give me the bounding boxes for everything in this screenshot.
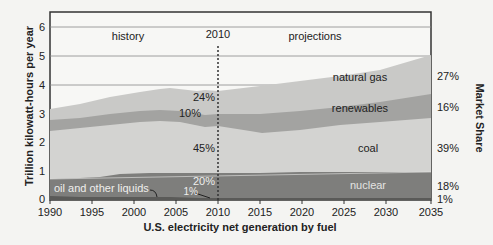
label-nuclear: nuclear [350, 179, 386, 191]
svg-text:2030: 2030 [374, 206, 398, 218]
svg-text:2035: 2035 [419, 206, 443, 218]
share-2035-renewables: 16% [437, 101, 459, 113]
y-axis-title: Trillion kilowatt-hours per year [23, 25, 35, 186]
year-2010-label: 2010 [206, 28, 230, 40]
svg-text:1995: 1995 [80, 206, 104, 218]
label-renewables: renewables [332, 102, 389, 114]
history-label: history [112, 30, 145, 42]
projections-label: projections [288, 30, 342, 42]
label-natural-gas: natural gas [333, 71, 388, 83]
share-2035-oil: 1% [437, 193, 453, 205]
svg-text:4: 4 [39, 79, 45, 91]
svg-text:2: 2 [39, 136, 45, 148]
x-axis-ticks: 1990 1995 2000 2005 2010 2015 2020 2025 … [38, 206, 443, 218]
share-2010-oil: 1% [184, 186, 199, 197]
svg-text:2005: 2005 [164, 206, 188, 218]
label-coal: coal [358, 142, 378, 154]
svg-text:0: 0 [39, 193, 45, 205]
svg-text:5: 5 [39, 50, 45, 62]
svg-text:2025: 2025 [332, 206, 356, 218]
share-2010-coal: 45% [193, 142, 215, 154]
svg-text:1990: 1990 [38, 206, 62, 218]
share-2010-gas: 24% [193, 91, 215, 103]
share-2035-nuclear: 18% [437, 180, 459, 192]
share-2035-gas: 27% [437, 70, 459, 82]
label-oil: oil and other liquids [54, 182, 149, 194]
svg-text:2020: 2020 [290, 206, 314, 218]
svg-text:3: 3 [39, 108, 45, 120]
svg-text:2000: 2000 [122, 206, 146, 218]
svg-text:6: 6 [39, 21, 45, 33]
x-axis-title: U.S. electricity net generation by fuel [143, 221, 336, 233]
y-axis-ticks: 0 1 2 3 4 5 6 [39, 21, 45, 205]
svg-text:2015: 2015 [248, 206, 272, 218]
right-axis-title: Market Share [474, 83, 486, 152]
chart: history 2010 projections natural gas ren… [0, 0, 493, 245]
share-2035-coal: 39% [437, 142, 459, 154]
share-2010-renewables: 10% [179, 107, 201, 119]
svg-text:1: 1 [39, 165, 45, 177]
svg-text:2010: 2010 [206, 206, 230, 218]
